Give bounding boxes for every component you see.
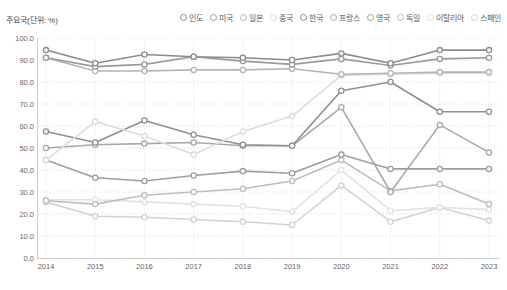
- data-point-marker[interactable]: [339, 56, 344, 61]
- data-point-marker[interactable]: [142, 199, 147, 204]
- data-point-marker[interactable]: [437, 166, 442, 171]
- legend-label: 영국: [376, 12, 390, 23]
- data-point-marker[interactable]: [93, 214, 98, 219]
- data-point-marker[interactable]: [437, 182, 442, 187]
- legend-item-한국[interactable]: 한국: [300, 12, 323, 23]
- legend-marker-icon: [180, 14, 187, 21]
- data-point-marker[interactable]: [93, 61, 98, 66]
- data-point-marker[interactable]: [142, 215, 147, 220]
- data-point-marker[interactable]: [191, 67, 196, 72]
- data-point-marker[interactable]: [93, 175, 98, 180]
- data-point-marker[interactable]: [339, 51, 344, 56]
- data-point-marker[interactable]: [486, 207, 491, 212]
- data-point-marker[interactable]: [486, 218, 491, 223]
- data-point-marker[interactable]: [142, 133, 147, 138]
- series-line-한국: [46, 82, 489, 146]
- data-point-marker[interactable]: [43, 129, 48, 134]
- legend-label: 스페인: [480, 12, 501, 23]
- data-point-marker[interactable]: [240, 219, 245, 224]
- data-point-marker[interactable]: [142, 118, 147, 123]
- data-point-marker[interactable]: [339, 158, 344, 163]
- data-point-marker[interactable]: [290, 222, 295, 227]
- data-point-marker[interactable]: [43, 198, 48, 203]
- data-point-marker[interactable]: [142, 178, 147, 183]
- legend-item-인도[interactable]: 인도: [180, 12, 203, 23]
- data-point-marker[interactable]: [486, 202, 491, 207]
- data-point-marker[interactable]: [191, 202, 196, 207]
- data-point-marker[interactable]: [191, 189, 196, 194]
- data-point-marker[interactable]: [191, 140, 196, 145]
- data-point-marker[interactable]: [339, 72, 344, 77]
- legend-item-프랑스[interactable]: 프랑스: [330, 12, 360, 23]
- y-axis-tick-label: 0.0: [24, 254, 34, 263]
- data-point-marker[interactable]: [388, 189, 393, 194]
- data-point-marker[interactable]: [43, 55, 48, 60]
- data-point-marker[interactable]: [43, 158, 48, 163]
- data-point-marker[interactable]: [388, 166, 393, 171]
- data-point-marker[interactable]: [240, 204, 245, 209]
- data-point-marker[interactable]: [339, 88, 344, 93]
- data-point-marker[interactable]: [191, 152, 196, 157]
- data-point-marker[interactable]: [240, 67, 245, 72]
- data-point-marker[interactable]: [388, 219, 393, 224]
- data-point-marker[interactable]: [240, 55, 245, 60]
- chart-page: 주요국(단위: %) 인도미국일본중국한국프랑스영국독일이탈리아스페인 100.…: [0, 0, 507, 290]
- legend-item-중국[interactable]: 중국: [270, 12, 293, 23]
- legend-item-독일[interactable]: 독일: [397, 12, 420, 23]
- line-chart-svg: [38, 38, 499, 258]
- data-point-marker[interactable]: [339, 105, 344, 110]
- data-point-marker[interactable]: [437, 70, 442, 75]
- data-point-marker[interactable]: [142, 52, 147, 57]
- data-point-marker[interactable]: [290, 114, 295, 119]
- data-point-marker[interactable]: [191, 54, 196, 59]
- data-point-marker[interactable]: [240, 142, 245, 147]
- data-point-marker[interactable]: [142, 68, 147, 73]
- data-point-marker[interactable]: [388, 61, 393, 66]
- data-point-marker[interactable]: [388, 79, 393, 84]
- data-point-marker[interactable]: [486, 48, 491, 53]
- data-point-marker[interactable]: [290, 143, 295, 148]
- legend-marker-icon: [300, 14, 307, 21]
- data-point-marker[interactable]: [142, 141, 147, 146]
- data-point-marker[interactable]: [388, 208, 393, 213]
- legend-item-영국[interactable]: 영국: [367, 12, 390, 23]
- data-point-marker[interactable]: [191, 217, 196, 222]
- data-point-marker[interactable]: [486, 166, 491, 171]
- legend-item-이탈리아[interactable]: 이탈리아: [427, 12, 464, 23]
- data-point-marker[interactable]: [290, 57, 295, 62]
- data-point-marker[interactable]: [240, 129, 245, 134]
- data-point-marker[interactable]: [486, 150, 491, 155]
- data-point-marker[interactable]: [388, 71, 393, 76]
- data-point-marker[interactable]: [437, 56, 442, 61]
- data-point-marker[interactable]: [437, 205, 442, 210]
- data-point-marker[interactable]: [486, 109, 491, 114]
- data-point-marker[interactable]: [290, 178, 295, 183]
- data-point-marker[interactable]: [339, 152, 344, 157]
- data-point-marker[interactable]: [191, 173, 196, 178]
- data-point-marker[interactable]: [339, 167, 344, 172]
- data-point-marker[interactable]: [339, 183, 344, 188]
- legend-item-일본[interactable]: 일본: [240, 12, 263, 23]
- data-point-marker[interactable]: [93, 202, 98, 207]
- data-point-marker[interactable]: [93, 140, 98, 145]
- data-point-marker[interactable]: [142, 62, 147, 67]
- data-point-marker[interactable]: [290, 171, 295, 176]
- data-point-marker[interactable]: [437, 109, 442, 114]
- data-point-marker[interactable]: [93, 119, 98, 124]
- data-point-marker[interactable]: [486, 55, 491, 60]
- data-point-marker[interactable]: [142, 193, 147, 198]
- data-point-marker[interactable]: [240, 186, 245, 191]
- legend-item-미국[interactable]: 미국: [210, 12, 233, 23]
- x-axis-tick-label: 2016: [136, 262, 153, 271]
- data-point-marker[interactable]: [43, 145, 48, 150]
- data-point-marker[interactable]: [240, 169, 245, 174]
- data-point-marker[interactable]: [486, 70, 491, 75]
- data-point-marker[interactable]: [43, 48, 48, 53]
- x-axis-tick-label: 2022: [431, 262, 448, 271]
- legend-item-스페인[interactable]: 스페인: [471, 12, 501, 23]
- data-point-marker[interactable]: [437, 48, 442, 53]
- x-axis-tick-label: 2014: [38, 262, 55, 271]
- data-point-marker[interactable]: [437, 122, 442, 127]
- data-point-marker[interactable]: [191, 132, 196, 137]
- data-point-marker[interactable]: [290, 209, 295, 214]
